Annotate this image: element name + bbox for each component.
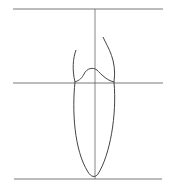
tooth-diagram bbox=[0, 0, 175, 188]
crown-right-edge bbox=[103, 37, 115, 82]
crown-occlusal-edge bbox=[75, 68, 114, 82]
root-outline bbox=[74, 82, 115, 176]
crown-left-edge bbox=[73, 50, 76, 82]
